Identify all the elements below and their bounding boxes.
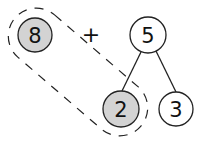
node-part-right: 3: [159, 92, 193, 126]
node-part-left: 2: [103, 91, 139, 127]
node-whole-label: 5: [141, 24, 154, 48]
number-bond-diagram: 8 + 5 2 3: [0, 0, 202, 146]
node-part-left-label: 2: [114, 98, 127, 122]
edge-whole-to-part-left: [122, 52, 141, 91]
node-whole: 5: [130, 17, 166, 53]
node-addend: 8: [18, 18, 52, 52]
plus-operator: +: [82, 22, 100, 47]
node-part-right-label: 3: [169, 98, 182, 122]
node-addend-label: 8: [28, 24, 41, 48]
edge-whole-to-part-right: [156, 51, 176, 92]
